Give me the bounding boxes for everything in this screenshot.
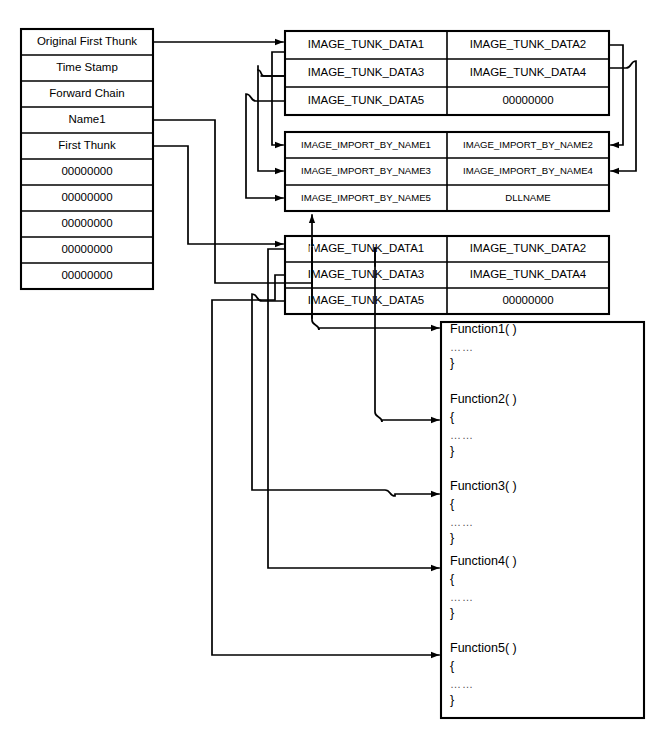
- thunk-top-r0c0: IMAGE_TUNK_DATA1: [308, 38, 425, 50]
- import-by-name-r0c0: IMAGE_IMPORT_BY_NAME1: [301, 139, 431, 150]
- import-descriptor-table: Original First Thunk Time Stamp Forward …: [21, 29, 153, 289]
- descriptor-row-9: 00000000: [61, 269, 112, 281]
- function-close-0: }: [450, 356, 454, 370]
- connector-btunk5-to-function3: [252, 294, 439, 496]
- connector-tunk2-to-name2: [609, 45, 623, 145]
- connector-btunk-to-function5: [212, 275, 439, 655]
- descriptor-row-1: Time Stamp: [56, 61, 118, 73]
- image-import-by-name-table: IMAGE_IMPORT_BY_NAME1 IMAGE_IMPORT_BY_NA…: [285, 132, 609, 211]
- descriptor-row-4: First Thunk: [58, 139, 116, 151]
- descriptor-row-6: 00000000: [61, 191, 112, 203]
- connector-tunk1-to-name1: [272, 52, 285, 145]
- image-thunk-data-table-top: IMAGE_TUNK_DATA1 IMAGE_TUNK_DATA2 IMAGE_…: [285, 31, 609, 115]
- import-by-name-r1c0: IMAGE_IMPORT_BY_NAME3: [301, 165, 431, 176]
- import-by-name-r0c1: IMAGE_IMPORT_BY_NAME2: [463, 139, 593, 150]
- import-by-name-r2c1: DLLNAME: [505, 192, 550, 203]
- descriptor-row-2: Forward Chain: [49, 87, 124, 99]
- descriptor-row-7: 00000000: [61, 217, 112, 229]
- descriptor-row-8: 00000000: [61, 243, 112, 255]
- connector-first-thunk: [153, 146, 283, 244]
- function-name-1: Function2( ): [450, 392, 517, 406]
- function-name-3: Function4( ): [450, 554, 517, 568]
- function-open-3: {: [450, 572, 454, 586]
- function-open-2: {: [450, 497, 454, 511]
- descriptor-row-0: Original First Thunk: [37, 35, 137, 47]
- thunk-top-r1c1: IMAGE_TUNK_DATA4: [470, 66, 587, 78]
- function-code-box: Function1( ) …… } Function2( ) { …… } Fu…: [441, 322, 644, 718]
- thunk-bottom-r2c1: 00000000: [502, 294, 553, 306]
- function-close-4: }: [450, 693, 454, 707]
- thunk-bottom-r1c1: IMAGE_TUNK_DATA4: [470, 268, 587, 280]
- function-ellipsis-4: ……: [450, 678, 474, 690]
- thunk-bottom-r1c0: IMAGE_TUNK_DATA3: [308, 268, 425, 280]
- thunk-top-r2c1: 00000000: [502, 94, 553, 106]
- thunk-top-r1c0: IMAGE_TUNK_DATA3: [308, 66, 425, 78]
- thunk-bottom-r2c0: IMAGE_TUNK_DATA5: [308, 294, 425, 306]
- pe-import-structure-diagram: Original First Thunk Time Stamp Forward …: [0, 0, 665, 732]
- import-by-name-r1c1: IMAGE_IMPORT_BY_NAME4: [463, 165, 594, 176]
- thunk-top-r2c0: IMAGE_TUNK_DATA5: [308, 94, 425, 106]
- connector-tunk5-to-name5: [246, 94, 285, 198]
- function-name-0: Function1( ): [450, 322, 517, 336]
- function-close-3: }: [450, 606, 454, 620]
- function-open-4: {: [450, 659, 454, 673]
- function-open-1: {: [450, 410, 454, 424]
- function-ellipsis-1: ……: [450, 429, 474, 441]
- thunk-bottom-r0c0: IMAGE_TUNK_DATA1: [308, 242, 425, 254]
- function-ellipsis-0: ……: [450, 341, 474, 353]
- descriptor-row-5: 00000000: [61, 165, 112, 177]
- function-close-1: }: [450, 444, 454, 458]
- image-thunk-data-table-bottom: IMAGE_TUNK_DATA1 IMAGE_TUNK_DATA2 IMAGE_…: [285, 236, 609, 314]
- function-ellipsis-3: ……: [450, 591, 474, 603]
- import-by-name-r2c0: IMAGE_IMPORT_BY_NAME5: [301, 192, 431, 203]
- descriptor-row-3: Name1: [68, 113, 105, 125]
- function-close-2: }: [450, 531, 454, 545]
- function-ellipsis-2: ……: [450, 516, 474, 528]
- thunk-bottom-r0c1: IMAGE_TUNK_DATA2: [470, 242, 587, 254]
- function-name-2: Function3( ): [450, 479, 517, 493]
- connector-tunk3-to-name3: [258, 66, 283, 171]
- function-name-4: Function5( ): [450, 641, 517, 655]
- thunk-top-r0c1: IMAGE_TUNK_DATA2: [470, 38, 587, 50]
